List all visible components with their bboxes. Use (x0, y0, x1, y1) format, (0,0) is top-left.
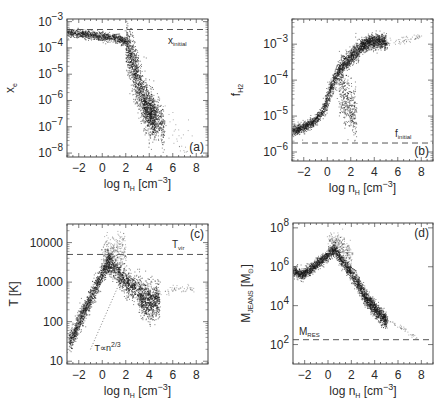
x-tick-label: −2 (72, 161, 86, 175)
y-axis-label: xe (3, 83, 18, 93)
y-tick-label: 10−5 (38, 63, 63, 81)
panel-a-xe-vs-density: −20246810−310−410−510−610−710−8log nH [c… (3, 11, 208, 192)
panel-d-jeans-mass-vs-density: −202468108106104102log nH [cm−3]MJEANS [… (239, 217, 433, 399)
x-tick-label: 8 (193, 161, 200, 175)
x-tick-label: 0 (324, 165, 331, 179)
panel-label: (a) (189, 140, 204, 154)
y-tick-label: 10 (50, 354, 64, 368)
y-tick-label: 10000 (30, 236, 64, 250)
x-tick-label: 6 (169, 368, 176, 382)
x-axis-label: log nH [cm−3] (104, 382, 171, 399)
panel-b-fh2-vs-density: −20246810−310−410−510−6log nH [cm−3]fH2(… (229, 19, 433, 196)
x-tick-label: −2 (297, 165, 311, 179)
x-tick-label: 8 (193, 368, 200, 382)
panel-c-temperature-vs-density: −20246810000100010010log nH [cm−3]T [K](… (7, 224, 208, 399)
x-tick-label: 4 (371, 368, 378, 382)
x-axis-label: log nH [cm−3] (329, 382, 396, 399)
reference-line-label: Tvir (172, 239, 184, 251)
y-axis-label: T [K] (7, 281, 21, 306)
y-tick-label: 10−4 (38, 37, 63, 55)
figure: −20246810−310−410−510−610−710−8log nH [c… (0, 0, 443, 407)
y-tick-label: 10−4 (263, 69, 288, 87)
x-tick-label: −2 (298, 368, 312, 382)
scatter-points (64, 17, 194, 167)
x-axis-label: log nH [cm−3] (104, 175, 171, 192)
x-tick-label: 8 (418, 165, 425, 179)
y-tick-label: 10−6 (38, 89, 63, 107)
y-tick-label: 100 (43, 315, 63, 329)
scatter-points (292, 229, 418, 340)
x-tick-label: 0 (325, 368, 332, 382)
y-tick-label: 10−3 (38, 11, 63, 29)
y-tick-label: 104 (270, 295, 289, 313)
x-tick-label: 6 (394, 165, 401, 179)
y-tick-label: 10−8 (38, 142, 63, 160)
panel-label: (b) (414, 144, 429, 158)
reference-line-label: MRES (299, 326, 320, 338)
x-tick-label: 4 (371, 165, 378, 179)
scatter-points (290, 30, 422, 141)
power-law-annotation: T∝n2/3 (95, 341, 121, 353)
x-tick-label: 2 (347, 165, 354, 179)
x-tick-label: 2 (348, 368, 355, 382)
x-tick-label: 2 (122, 161, 129, 175)
x-tick-label: 2 (122, 368, 129, 382)
x-tick-label: −2 (72, 368, 86, 382)
y-tick-label: 102 (270, 334, 289, 352)
x-axis-label: log nH [cm−3] (329, 179, 396, 196)
y-tick-label: 106 (270, 256, 289, 274)
y-axis-label: MJEANS [M⊙] (239, 264, 254, 323)
x-tick-label: 6 (169, 161, 176, 175)
x-tick-label: 4 (146, 368, 153, 382)
panel-label: (d) (414, 226, 429, 240)
x-tick-label: 0 (99, 368, 106, 382)
y-tick-label: 10−5 (263, 105, 288, 123)
y-tick-label: 10−6 (263, 141, 288, 159)
y-tick-label: 10−3 (263, 33, 288, 51)
x-tick-label: 8 (418, 368, 425, 382)
x-tick-label: 6 (395, 368, 402, 382)
x-tick-label: 0 (99, 161, 106, 175)
y-tick-label: 108 (270, 217, 289, 235)
y-tick-label: 1000 (36, 275, 63, 289)
x-tick-label: 4 (146, 161, 153, 175)
reference-line-label: finitial (395, 128, 411, 140)
panel-label: (c) (190, 227, 204, 241)
y-axis-label: fH2 (229, 84, 244, 96)
y-tick-label: 10−7 (38, 116, 63, 134)
reference-line-label: xinitial (168, 35, 187, 47)
